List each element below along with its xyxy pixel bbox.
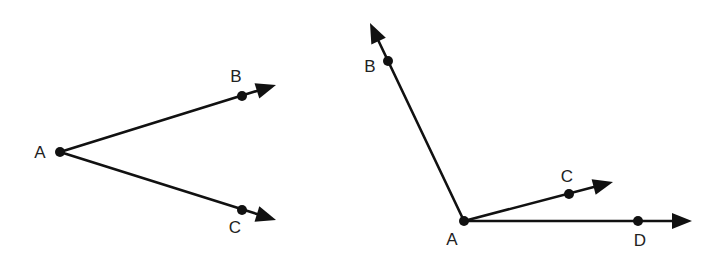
- ray-AC: [464, 185, 603, 221]
- arrowhead-icon: [255, 206, 276, 221]
- figure-angle-BAC: ABC: [34, 67, 276, 237]
- arrowhead-icon: [255, 83, 276, 98]
- point-B: [383, 56, 393, 66]
- point-A: [459, 216, 469, 226]
- point-B: [237, 91, 247, 101]
- arrowhead-icon: [672, 213, 692, 229]
- arrowhead-icon: [370, 23, 386, 44]
- point-D: [633, 216, 643, 226]
- arrowhead-icon: [592, 179, 613, 194]
- point-label-C: C: [561, 167, 573, 186]
- geometry-diagram: ABC ABCD: [0, 0, 719, 258]
- figure-angles-BAC-CAD: ABCD: [364, 23, 692, 250]
- point-label-B: B: [364, 57, 375, 76]
- point-label-B: B: [230, 67, 241, 86]
- point-label-A: A: [446, 230, 458, 249]
- point-A: [55, 147, 65, 157]
- ray-AB: [60, 88, 266, 152]
- point-C: [237, 205, 247, 215]
- point-C: [564, 189, 574, 199]
- point-label-D: D: [634, 231, 646, 250]
- diagram-svg: ABC ABCD: [0, 0, 719, 258]
- point-label-C: C: [229, 218, 241, 237]
- point-label-A: A: [34, 143, 46, 162]
- ray-AC: [60, 152, 266, 217]
